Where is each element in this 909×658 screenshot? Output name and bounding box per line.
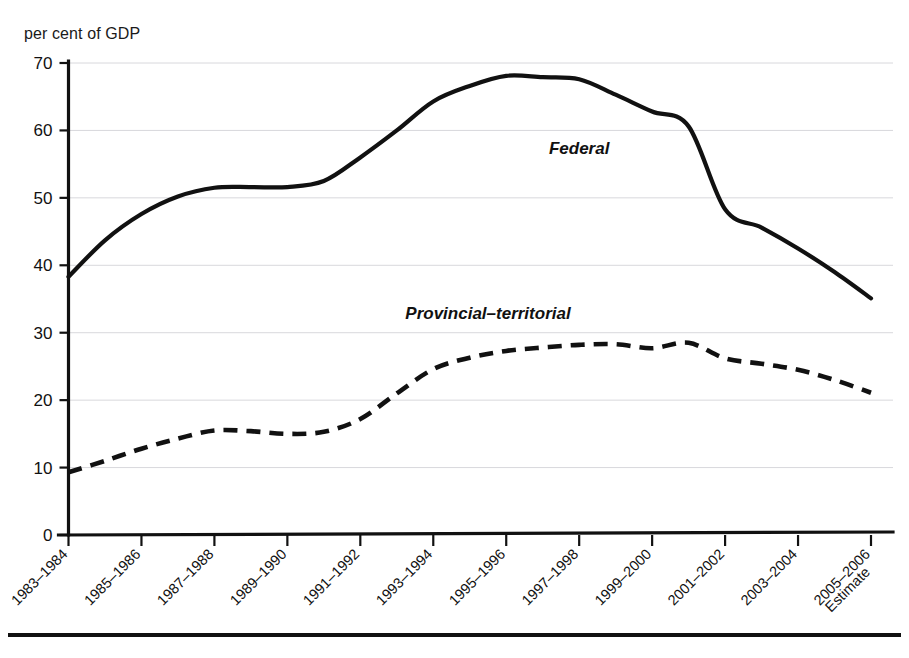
x-tick-label: 1987–1988 [154,546,217,609]
x-tick-label: 1989–1990 [227,546,290,609]
series-annotation: Provincial–territorial [405,304,572,323]
y-axis-ticks-group: 010203040506070 [34,54,69,545]
y-tick-label: 20 [34,391,53,410]
x-tick-label: 1997–1998 [519,546,582,609]
y-tick-label: 60 [34,121,53,140]
x-tick-label: 1983–1984 [8,546,71,609]
x-tick-label: 1993–1994 [373,546,436,609]
y-tick-label: 0 [43,526,52,545]
x-tick-label: 1985–1986 [81,546,144,609]
x-tick-label: 1999–2000 [592,546,655,609]
gridlines-group [69,63,894,468]
x-tick-label: 1995–1996 [446,546,509,609]
y-tick-label: 30 [34,324,53,343]
x-tick-label: 1991–1992 [300,546,363,609]
line-chart-plot: 010203040506070 1983–19841985–19861987–1… [0,0,909,658]
series-annotation: Federal [549,139,611,158]
x-axis-ticks-group: 1983–19841985–19861987–19881989–19901991… [8,535,873,615]
series-annotations-group: FederalProvincial–territorial [405,139,610,323]
series-line-provincial-territorial [69,343,872,473]
y-tick-label: 10 [34,459,53,478]
x-axis-line [59,532,894,535]
y-tick-label: 50 [34,189,53,208]
footer-rule [8,633,901,637]
y-tick-label: 70 [34,54,53,73]
data-series-group [69,75,872,472]
x-tick-label: 2003–2004 [738,546,801,609]
chart-figure: per cent of GDP 010203040506070 1983–198… [0,0,909,658]
x-tick-label: 2001–2002 [665,546,728,609]
y-tick-label: 40 [34,256,53,275]
